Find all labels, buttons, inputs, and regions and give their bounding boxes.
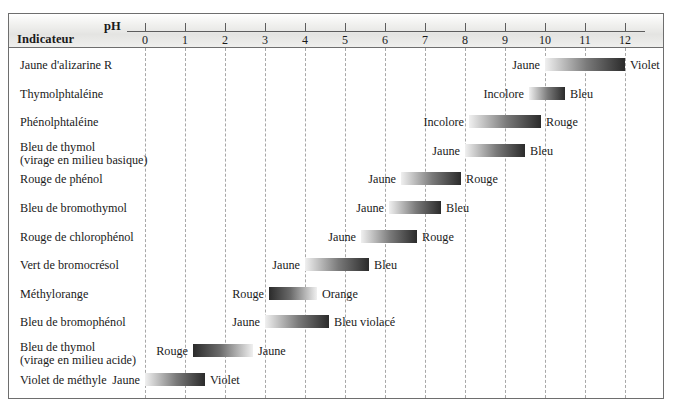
indicator-column-header: Indicateur (17, 32, 74, 47)
bar-right-color-label: Violet (630, 58, 660, 73)
axis-tick (625, 23, 626, 31)
table-row: Vert de bromocrésolJauneBleu (9, 252, 663, 280)
bar-right-color-label: Rouge (546, 115, 578, 130)
axis-tick (385, 23, 386, 31)
axis-tick (345, 23, 346, 31)
ph-range-bar (193, 344, 253, 357)
bar-left-color-label: Incolore (483, 87, 524, 102)
indicator-name: Rouge de phénol (20, 173, 103, 186)
table-row: Rouge de phénolJauneRouge (9, 166, 663, 194)
ph-range-bar (265, 315, 329, 328)
table-row: Bleu de bromophénolJauneBleu violacé (9, 309, 663, 337)
bar-left-color-label: Jaune (272, 258, 300, 273)
bar-right-color-label: Rouge (466, 172, 498, 187)
table-row: Rouge de chlorophénolJauneRouge (9, 224, 663, 252)
indicator-name: Phénolphtaléine (20, 116, 99, 129)
indicator-name: Vert de bromocrésol (20, 259, 119, 272)
ph-range-bar (401, 172, 461, 185)
ph-indicator-chart: Indicateur pH 0123456789101112 Jaune d'a… (0, 0, 676, 412)
indicator-name: Bleu de bromothymol (20, 202, 127, 215)
ph-axis-label: pH (104, 19, 121, 34)
bar-right-color-label: Bleu (374, 258, 397, 273)
table-row: ThymolphtaléineIncoloreBleu (9, 81, 663, 109)
ph-range-bar (305, 258, 369, 271)
axis-tick-label: 1 (174, 33, 196, 48)
table-row: Bleu de bromothymolJauneBleu (9, 195, 663, 223)
axis-tick (545, 23, 546, 31)
axis-tick-label: 9 (494, 33, 516, 48)
table-row: Bleu de thymol(virage en milieu basique)… (9, 138, 663, 166)
axis-tick-label: 11 (574, 33, 596, 48)
indicator-name: Bleu de bromophénol (20, 316, 126, 329)
indicator-name: Thymolphtaléine (20, 88, 103, 101)
bar-left-color-label: Incolore (423, 115, 464, 130)
axis-tick-label: 8 (454, 33, 476, 48)
ph-range-bar (545, 58, 625, 71)
ph-range-bar (469, 115, 541, 128)
bar-right-color-label: Bleu violacé (334, 315, 395, 330)
table-row: Jaune d'alizarine RJauneViolet (9, 52, 663, 80)
bar-right-color-label: Bleu (446, 201, 469, 216)
axis-tick (425, 23, 426, 31)
axis-tick (185, 23, 186, 31)
axis-tick-label: 2 (214, 33, 236, 48)
bar-left-color-label: Jaune (356, 201, 384, 216)
ph-range-bar (145, 373, 205, 386)
bar-right-color-label: Jaune (258, 344, 286, 359)
indicator-name: Bleu de thymol(virage en milieu basique) (20, 141, 148, 167)
axis-tick (465, 23, 466, 31)
axis-tick (305, 23, 306, 31)
bar-right-color-label: Bleu (570, 87, 593, 102)
bar-right-color-label: Bleu (530, 144, 553, 159)
axis-tick (505, 23, 506, 31)
bar-left-color-label: Jaune (112, 373, 140, 388)
axis-tick-label: 5 (334, 33, 356, 48)
ph-axis-line (127, 31, 645, 32)
bar-left-color-label: Jaune (368, 172, 396, 187)
bar-right-color-label: Violet (210, 373, 240, 388)
axis-tick-label: 6 (374, 33, 396, 48)
axis-tick (145, 23, 146, 31)
ph-range-bar (465, 144, 525, 157)
indicator-name: Bleu de thymol(virage en milieu acide) (20, 341, 136, 367)
axis-tick (225, 23, 226, 31)
indicator-name: Violet de méthyle (20, 374, 107, 387)
ph-range-bar (389, 201, 441, 214)
axis-tick-label: 3 (254, 33, 276, 48)
bar-right-color-label: Orange (322, 287, 358, 302)
table-row: PhénolphtaléineIncoloreRouge (9, 109, 663, 137)
bar-right-color-label: Rouge (422, 230, 454, 245)
bar-left-color-label: Jaune (232, 315, 260, 330)
axis-tick-label: 7 (414, 33, 436, 48)
ph-range-bar (361, 230, 417, 243)
table-row: Bleu de thymol(virage en milieu acide)Ro… (9, 338, 663, 366)
ph-range-bar (529, 87, 565, 100)
indicator-name: Méthylorange (20, 288, 88, 301)
axis-tick (585, 23, 586, 31)
table-row: Violet de méthyleJauneViolet (9, 367, 663, 395)
bar-left-color-label: Jaune (432, 144, 460, 159)
bar-left-color-label: Jaune (328, 230, 356, 245)
axis-tick-label: 0 (134, 33, 156, 48)
indicator-name: Jaune d'alizarine R (20, 59, 112, 72)
bar-left-color-label: Jaune (512, 58, 540, 73)
axis-tick-label: 4 (294, 33, 316, 48)
axis-tick (265, 23, 266, 31)
bar-left-color-label: Rouge (232, 287, 264, 302)
indicator-name: Rouge de chlorophénol (20, 231, 134, 244)
axis-tick-label: 10 (534, 33, 556, 48)
axis-tick-label: 12 (614, 33, 636, 48)
table-row: MéthylorangeRougeOrange (9, 281, 663, 309)
bar-left-color-label: Rouge (156, 344, 188, 359)
ph-range-bar (269, 287, 317, 300)
